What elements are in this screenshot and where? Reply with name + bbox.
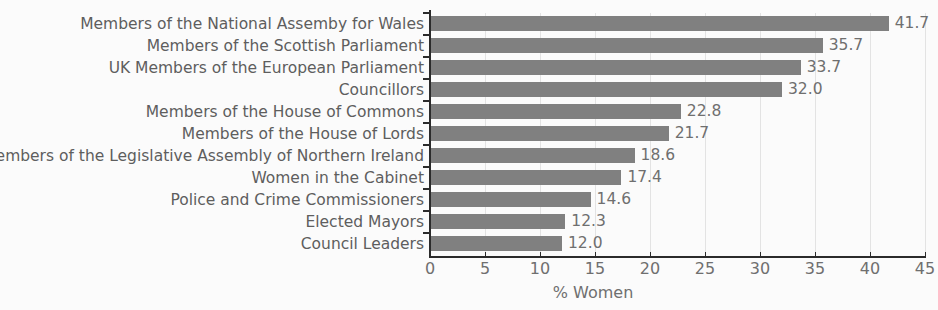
bar xyxy=(430,60,801,75)
bar xyxy=(430,192,591,207)
x-axis-tick xyxy=(870,252,871,257)
x-axis-title: % Women xyxy=(0,283,938,302)
category-axis-labels: Members of the National Assemby for Wale… xyxy=(0,13,424,255)
bar-value-label: 35.7 xyxy=(823,35,864,57)
y-axis-tick xyxy=(423,56,430,58)
bar-row: 12.0 xyxy=(430,233,925,255)
bar xyxy=(430,82,782,97)
category-label: Women in the Cabinet xyxy=(251,167,424,189)
x-axis-tick xyxy=(815,252,816,257)
x-axis-tick-label: 15 xyxy=(585,259,605,278)
bar-value-label: 18.6 xyxy=(635,145,676,167)
y-axis-tick xyxy=(423,122,430,124)
bar-value-label: 41.7 xyxy=(889,13,930,35)
bar-row: 33.7 xyxy=(430,57,925,79)
bar-value-label: 33.7 xyxy=(801,57,842,79)
x-axis-tick-label: 45 xyxy=(915,259,935,278)
x-axis-tick-label: 0 xyxy=(425,259,435,278)
bar-value-label: 12.3 xyxy=(565,211,606,233)
bar-row: 21.7 xyxy=(430,123,925,145)
plot-area: 41.735.733.732.022.821.718.617.414.612.3… xyxy=(430,13,925,255)
x-axis-tick-label: 20 xyxy=(640,259,660,278)
category-label: Members of the Scottish Parliament xyxy=(147,35,424,57)
y-axis-tick xyxy=(423,12,430,14)
y-axis-tick xyxy=(423,100,430,102)
bar-row: 32.0 xyxy=(430,79,925,101)
category-label: UK Members of the European Parliament xyxy=(109,57,424,79)
bar-value-label: 14.6 xyxy=(591,189,632,211)
bar-value-label: 17.4 xyxy=(621,167,662,189)
bar xyxy=(430,104,681,119)
category-label: Members of the Legislative Assembly of N… xyxy=(0,145,424,167)
x-axis-tick xyxy=(705,252,706,257)
bar-row: 12.3 xyxy=(430,211,925,233)
bar xyxy=(430,148,635,163)
bar-row: 17.4 xyxy=(430,167,925,189)
bar xyxy=(430,38,823,53)
category-label: Council Leaders xyxy=(301,233,424,255)
bar-row: 18.6 xyxy=(430,145,925,167)
y-axis-tick xyxy=(423,232,430,234)
x-axis-tick xyxy=(540,252,541,257)
category-label: Police and Crime Commissioners xyxy=(170,189,424,211)
bar-row: 35.7 xyxy=(430,35,925,57)
bar-chart: Members of the National Assemby for Wale… xyxy=(0,0,938,310)
bar-value-label: 12.0 xyxy=(562,233,603,255)
x-axis-tick xyxy=(595,252,596,257)
y-axis-tick xyxy=(423,78,430,80)
x-axis-tick-label: 10 xyxy=(530,259,550,278)
category-label: Members of the National Assemby for Wale… xyxy=(80,13,424,35)
bar-row: 41.7 xyxy=(430,13,925,35)
x-axis-tick-label: 40 xyxy=(860,259,880,278)
bar-value-label: 32.0 xyxy=(782,79,823,101)
bar xyxy=(430,236,562,251)
x-axis-tick-label: 5 xyxy=(480,259,490,278)
y-axis-tick xyxy=(423,34,430,36)
x-axis-tick xyxy=(650,252,651,257)
category-label: Members of the House of Lords xyxy=(182,123,424,145)
x-axis-tick-label: 30 xyxy=(750,259,770,278)
bar xyxy=(430,170,621,185)
bar xyxy=(430,16,889,31)
y-axis-tick xyxy=(423,144,430,146)
y-axis-tick xyxy=(423,188,430,190)
x-axis-tick xyxy=(925,252,926,257)
category-label: Councillors xyxy=(339,79,424,101)
x-axis-tick-label: 25 xyxy=(695,259,715,278)
x-axis-line xyxy=(430,256,926,258)
x-axis-title-text: % Women xyxy=(553,283,634,302)
x-axis-tick xyxy=(485,252,486,257)
bar-value-label: 22.8 xyxy=(681,101,722,123)
bar xyxy=(430,126,669,141)
category-label: Members of the House of Commons xyxy=(146,101,424,123)
y-axis-tick xyxy=(423,210,430,212)
bar-row: 14.6 xyxy=(430,189,925,211)
x-axis-tick xyxy=(430,252,431,257)
bar xyxy=(430,214,565,229)
x-axis-tick xyxy=(760,252,761,257)
gridline xyxy=(925,13,926,255)
y-axis-tick xyxy=(423,166,430,168)
x-axis-tick-label: 35 xyxy=(805,259,825,278)
category-label: Elected Mayors xyxy=(305,211,424,233)
bar-row: 22.8 xyxy=(430,101,925,123)
y-axis-line xyxy=(429,10,431,258)
bar-value-label: 21.7 xyxy=(669,123,710,145)
